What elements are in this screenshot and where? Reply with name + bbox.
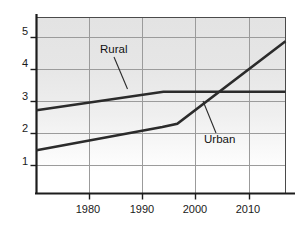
x-tick-label-1990: 1990 xyxy=(122,203,162,215)
series-label-rural: Rural xyxy=(100,43,127,55)
y-tick-label-1: 1 xyxy=(14,155,28,167)
y-tick-label-5: 5 xyxy=(14,25,28,37)
x-tick-label-2000: 2000 xyxy=(175,203,215,215)
x-tick-label-1980: 1980 xyxy=(68,203,108,215)
y-tick-label-2: 2 xyxy=(14,122,28,134)
line-chart: 5 4 3 2 1 1980 1990 2000 2010 Rural Urba… xyxy=(0,0,304,236)
y-tick-label-3: 3 xyxy=(14,90,28,102)
y-tick-label-4: 4 xyxy=(14,57,28,69)
series-label-urban: Urban xyxy=(204,133,235,145)
plot-canvas xyxy=(0,0,304,236)
x-tick-label-2010: 2010 xyxy=(228,203,268,215)
